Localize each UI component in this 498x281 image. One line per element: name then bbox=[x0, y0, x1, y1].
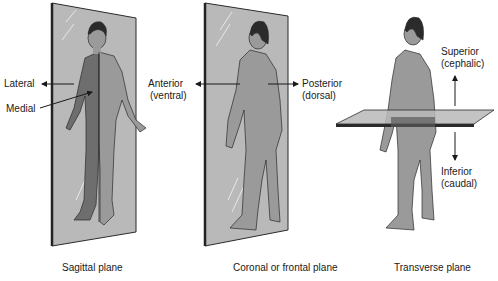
sagittal-panel bbox=[40, 3, 146, 246]
label-ventral: (ventral) bbox=[150, 90, 187, 102]
label-medial: Medial bbox=[6, 103, 35, 115]
label-inferior: Inferior bbox=[441, 166, 472, 178]
label-lateral: Lateral bbox=[4, 78, 35, 90]
label-anterior: Anterior bbox=[148, 78, 183, 90]
caption-sagittal: Sagittal plane bbox=[62, 262, 123, 274]
label-posterior: Posterior bbox=[302, 78, 342, 90]
label-cephalic: (cephalic) bbox=[441, 58, 484, 70]
figure-artwork bbox=[0, 0, 498, 281]
caption-coronal: Coronal or frontal plane bbox=[233, 262, 338, 274]
label-caudal: (caudal) bbox=[441, 178, 477, 190]
label-dorsal: (dorsal) bbox=[302, 90, 336, 102]
caption-transverse: Transverse plane bbox=[394, 262, 471, 274]
anatomical-planes-figure: Lateral Medial Sagittal plane Anterior (… bbox=[0, 0, 498, 281]
coronal-panel bbox=[196, 3, 298, 246]
label-superior: Superior bbox=[441, 46, 479, 58]
